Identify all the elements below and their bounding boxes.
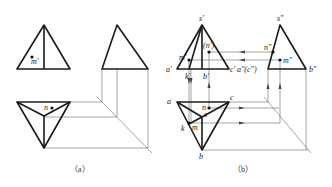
label-c: c [230, 93, 234, 102]
point-m-b [187, 121, 190, 124]
construction-lines-a [44, 69, 152, 153]
label-m-prime-a: m' [31, 57, 39, 66]
point-m-prime-b [187, 58, 190, 61]
label-b-prime: b' [203, 72, 209, 81]
label-a-prime: a' [166, 65, 172, 74]
label-b: b [199, 152, 203, 161]
side-view-a [102, 25, 148, 69]
panel-a: m' n （a） [17, 25, 152, 174]
label-m: m [192, 123, 198, 132]
label-a-double-c-double: a"(c") [237, 65, 257, 74]
label-n-prime-hidden: (n') [203, 41, 214, 50]
point-m-double-b [278, 58, 281, 61]
label-m-double: m" [283, 56, 293, 65]
label-s: s [204, 110, 207, 119]
projection-diagram: m' n （a） [0, 0, 332, 187]
panel-b: s' s" (n') m' a' k' b' c' a"(c") n" m" b… [166, 14, 317, 174]
caption-b: （b） [233, 165, 253, 174]
label-k: k [181, 124, 185, 133]
label-s-double: s" [277, 14, 284, 23]
label-s-prime: s' [199, 14, 204, 23]
label-a: a [167, 97, 171, 106]
caption-a: （a） [70, 165, 90, 174]
label-b-double: b" [309, 65, 317, 74]
front-view-a [17, 25, 70, 69]
point-n-prime-b [207, 50, 210, 53]
point-n-b [207, 106, 210, 109]
point-n-a [50, 106, 53, 109]
label-c-prime: c' [230, 65, 236, 74]
label-n-double: n" [264, 43, 272, 52]
label-n-a: n [44, 103, 48, 112]
label-m-prime: m' [179, 53, 187, 62]
label-k-prime: k' [185, 72, 191, 81]
point-n-double-b [271, 50, 274, 53]
